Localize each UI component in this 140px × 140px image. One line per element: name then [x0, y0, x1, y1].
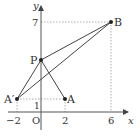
origin-label: O	[32, 115, 40, 126]
tick-x2: 2	[62, 115, 68, 126]
tick-y1: 1	[34, 101, 40, 111]
label-p: P	[30, 54, 38, 67]
y-axis-label: y	[32, 0, 39, 11]
point-b	[109, 20, 113, 24]
point-aprime	[15, 97, 19, 101]
point-p	[39, 58, 43, 62]
x-axis-label: x	[128, 115, 134, 126]
segment-p-a	[41, 60, 65, 99]
label-aprime: A′	[3, 93, 15, 106]
label-a: A	[66, 93, 76, 106]
coordinate-diagram: y x O 7 1 −2 2 6 B P A A′	[0, 0, 140, 140]
tick-x6: 6	[108, 115, 114, 126]
segment-p-b	[41, 22, 111, 60]
tick-y7: 7	[32, 17, 38, 28]
tick-xneg2: −2	[6, 115, 21, 126]
label-b: B	[114, 16, 122, 29]
